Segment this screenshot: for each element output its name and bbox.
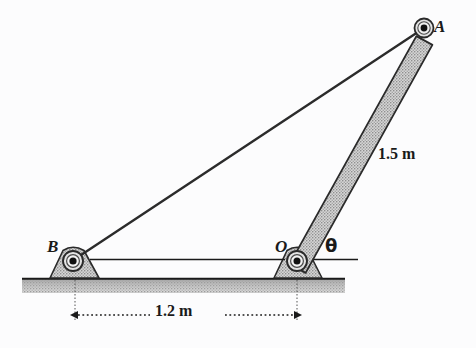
- pin-o-center-dot: [294, 258, 301, 265]
- pin-joint-a: [415, 19, 434, 38]
- pin-a-center-dot: [421, 25, 428, 32]
- diagram-canvas: [0, 0, 476, 348]
- pin-joint-b: [63, 251, 83, 271]
- label-length-oa: 1.5 m: [378, 146, 415, 162]
- label-length-ob: 1.2 m: [155, 303, 192, 319]
- pin-b-center-dot: [69, 257, 76, 264]
- label-point-a: A: [434, 18, 445, 35]
- mechanism-diagram: A B O θ 1.5 m 1.2 m: [0, 0, 476, 348]
- label-point-b: B: [47, 238, 58, 255]
- label-point-o: O: [275, 238, 287, 255]
- pin-joint-o: [287, 251, 307, 271]
- label-angle-theta: θ: [325, 237, 337, 255]
